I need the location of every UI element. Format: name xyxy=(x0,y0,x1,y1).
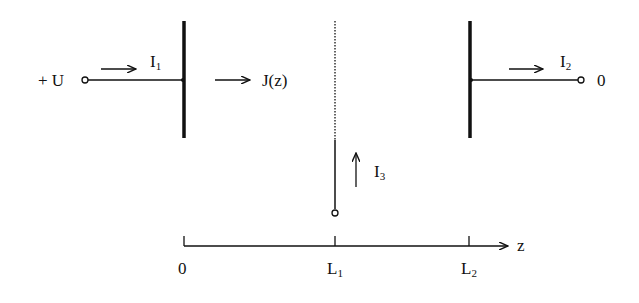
right-junction xyxy=(469,78,473,82)
tick-label-l2: L2 xyxy=(461,259,477,279)
input-voltage-label: + U xyxy=(38,71,64,90)
middle-probe-terminal xyxy=(332,210,338,216)
left-junction xyxy=(181,78,185,82)
z-axis-label: z xyxy=(517,236,525,255)
i1-label: I1 xyxy=(150,52,161,72)
input-terminal xyxy=(82,77,88,83)
i2-label: I2 xyxy=(560,52,571,72)
i3-label: I3 xyxy=(374,162,386,182)
current-density-label: J(z) xyxy=(262,71,287,90)
tick-label-l1: L1 xyxy=(327,259,343,279)
diagram-canvas: + U I1 J(z) I3 0 I2 z 0 L1 L2 xyxy=(0,0,639,303)
tick-label-0: 0 xyxy=(178,259,187,278)
output-voltage-label: 0 xyxy=(597,71,606,90)
output-terminal xyxy=(578,77,584,83)
